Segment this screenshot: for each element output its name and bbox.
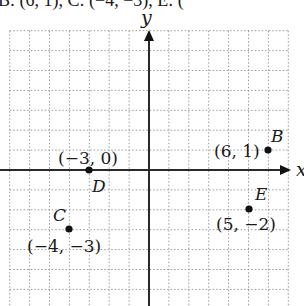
x-axis-label: x <box>296 158 304 180</box>
point-d-name: D <box>91 176 106 196</box>
point-c <box>65 225 72 232</box>
point-d-coords: (−3, 0) <box>58 148 118 168</box>
point-b-name: B <box>270 126 284 146</box>
point-b <box>264 146 271 153</box>
point-c-coords: (−4, −3) <box>27 236 101 256</box>
point-e <box>245 205 252 212</box>
point-b-coords: (6, 1) <box>214 141 260 161</box>
header-text: B: (6, 1), C: (−4, −3), E: ( <box>0 0 184 11</box>
point-c-name: C <box>53 205 66 225</box>
point-e-name: E <box>254 184 268 204</box>
y-axis-arrow-icon <box>144 30 154 41</box>
y-axis-label: y <box>140 6 152 28</box>
x-axis-arrow-icon <box>280 165 291 175</box>
coordinate-plane-figure: B: (6, 1), C: (−4, −3), E: ( x y B (6, 1… <box>0 0 304 306</box>
point-e-coords: (5, −2) <box>216 214 276 234</box>
